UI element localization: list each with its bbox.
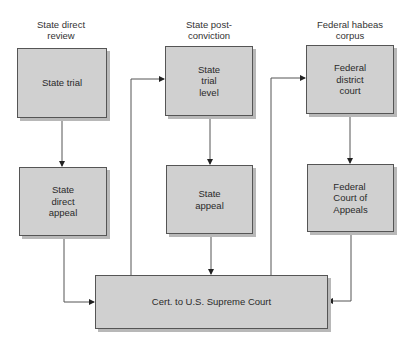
box-state-appeal: State appeal bbox=[166, 165, 253, 234]
box-state-trial: State trial bbox=[17, 48, 107, 118]
box-state-trial-level: State trial level bbox=[165, 46, 253, 116]
box-label: Federal Court of Appeals bbox=[333, 181, 367, 216]
box-cert-supreme-court: Cert. to U.S. Supreme Court bbox=[95, 275, 328, 329]
box-label: State trial level bbox=[198, 64, 220, 99]
box-state-direct-appeal: State direct appeal bbox=[19, 167, 107, 236]
box-label: Federal district court bbox=[334, 62, 366, 97]
box-label: State appeal bbox=[195, 188, 224, 211]
box-federal-district-court: Federal district court bbox=[306, 45, 394, 114]
box-label: Cert. to U.S. Supreme Court bbox=[152, 296, 271, 308]
box-label: State trial bbox=[42, 77, 82, 89]
box-label: State direct appeal bbox=[49, 184, 78, 219]
box-federal-court-of-appeals: Federal Court of Appeals bbox=[307, 164, 394, 232]
